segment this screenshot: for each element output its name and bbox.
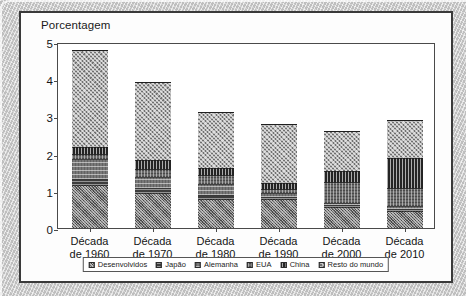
chart-axis-title: Porcentagem: [41, 19, 111, 31]
y-axis-tick-mark: [54, 44, 58, 45]
legend-swatch: [281, 262, 287, 268]
legend-item: Alemanha: [195, 260, 238, 269]
y-axis-tick-label: 4: [47, 75, 53, 87]
bar-segment: [135, 160, 171, 169]
legend-swatch: [195, 262, 201, 268]
bar-segment: [324, 131, 360, 171]
bar-segment: [387, 158, 423, 188]
bar-segment: [198, 168, 234, 175]
y-axis-tick-label: 1: [47, 187, 53, 199]
x-axis-tick-mark: [405, 228, 406, 232]
bar-segment: [387, 211, 423, 228]
y-axis-tick-mark: [54, 118, 58, 119]
bar-stack: [72, 50, 108, 228]
x-axis-tick-label-line1: Década: [322, 235, 362, 248]
bar-segment: [261, 124, 297, 182]
legend-label: Alemanha: [204, 260, 238, 269]
bar-segment: [324, 171, 360, 182]
legend-swatch: [156, 262, 162, 268]
y-axis-tick-label: 2: [47, 150, 53, 162]
bar-segment: [135, 193, 171, 228]
x-axis-tick-label-line1: Década: [133, 235, 173, 248]
legend-swatch: [89, 262, 95, 268]
bar-segment: [324, 182, 360, 204]
chart-legend: DesenvolvidosJapãoAlemanhaEUAChinaResto …: [83, 257, 389, 272]
legend-label: China: [290, 260, 310, 269]
bar-segment: [198, 199, 234, 228]
bar-segment: [198, 184, 234, 195]
page-background: Porcentagem 012345Décadade 1960Décadade …: [0, 0, 466, 296]
y-axis-tick-mark: [54, 156, 58, 157]
x-axis-tick-mark: [90, 228, 91, 232]
legend-item: Resto do mundo: [319, 260, 384, 269]
figure-inner: Porcentagem 012345Décadade 1960Décadade …: [21, 13, 451, 281]
bar-stack: [324, 131, 360, 228]
bar-segment: [198, 175, 234, 184]
y-axis-tick-label: 0: [47, 224, 53, 236]
y-axis-tick-mark: [54, 81, 58, 82]
plot-area: 012345Décadade 1960Décadade 1970Décadade…: [57, 43, 435, 229]
figure-frame: Porcentagem 012345Décadade 1960Décadade …: [19, 11, 453, 283]
bar-segment: [72, 179, 108, 186]
bar-segment: [72, 159, 108, 178]
bar-stack: [261, 124, 297, 228]
bar-segment: [135, 169, 171, 177]
x-axis-tick-label-line1: Década: [259, 235, 299, 248]
x-axis-tick-mark: [153, 228, 154, 232]
x-axis-tick-mark: [342, 228, 343, 232]
legend-label: Resto do mundo: [328, 260, 384, 269]
legend-label: Japão: [165, 260, 186, 269]
bar-stack: [135, 82, 171, 228]
bar-segment: [324, 207, 360, 228]
x-axis-tick-label: Décadade 2010: [385, 235, 425, 261]
bar-stack: [198, 112, 234, 228]
x-axis-tick-label-line1: Década: [196, 235, 236, 248]
x-axis-tick-mark: [279, 228, 280, 232]
y-axis-tick-mark: [54, 230, 58, 231]
x-axis-tick-label-line2: de 2010: [385, 248, 425, 261]
bar-segment: [261, 199, 297, 228]
bar-segment: [198, 112, 234, 168]
y-axis-tick-label: 5: [47, 38, 53, 50]
y-axis-tick-mark: [54, 193, 58, 194]
bar-segment: [72, 50, 108, 147]
legend-swatch: [247, 262, 253, 268]
legend-swatch: [319, 262, 325, 268]
legend-item: EUA: [247, 260, 272, 269]
legend-label: EUA: [256, 260, 272, 269]
legend-item: Desenvolvidos: [89, 260, 147, 269]
bar-segment: [72, 185, 108, 228]
y-axis-tick-label: 3: [47, 112, 53, 124]
legend-item: Japão: [156, 260, 186, 269]
x-axis-tick-mark: [216, 228, 217, 232]
legend-label: Desenvolvidos: [98, 260, 147, 269]
x-axis-tick-label-line1: Década: [385, 235, 425, 248]
bar-segment: [135, 177, 171, 188]
bar-segment: [135, 82, 171, 159]
x-axis-tick-label-line1: Década: [70, 235, 110, 248]
bar-segment: [387, 188, 423, 206]
bar-stack: [387, 120, 423, 228]
bar-segment: [387, 120, 423, 158]
legend-item: China: [281, 260, 310, 269]
